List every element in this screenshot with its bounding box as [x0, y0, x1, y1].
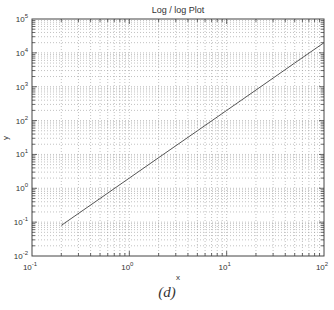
tick-label: 10-1	[14, 216, 29, 227]
tick-label: 102	[16, 115, 29, 126]
chart-title: Log / log Plot	[152, 5, 205, 15]
log-log-chart: Log / log Plot 10-1100101102 10-210-1100…	[0, 0, 334, 284]
y-axis-label: y	[1, 136, 10, 140]
tick-label: 104	[16, 47, 29, 58]
axis-ticks	[32, 19, 324, 256]
tick-label: 100	[121, 261, 134, 272]
tick-label: 103	[16, 81, 29, 92]
tick-label: 105	[16, 13, 29, 24]
tick-label: 101	[219, 261, 232, 272]
tick-label: 100	[16, 182, 29, 193]
tick-label: 101	[16, 148, 29, 159]
tick-label: 10-1	[23, 261, 38, 272]
grid-lines	[32, 19, 324, 256]
plot-area-frame	[32, 19, 324, 256]
tick-label: 102	[316, 261, 329, 272]
x-tick-labels: 10-1100101102	[23, 261, 329, 272]
x-axis-label: x	[176, 273, 180, 282]
y-tick-labels: 10-210-1100101102103104105	[14, 13, 29, 261]
figure-caption: (d)	[0, 284, 334, 301]
tick-label: 10-2	[14, 250, 29, 261]
